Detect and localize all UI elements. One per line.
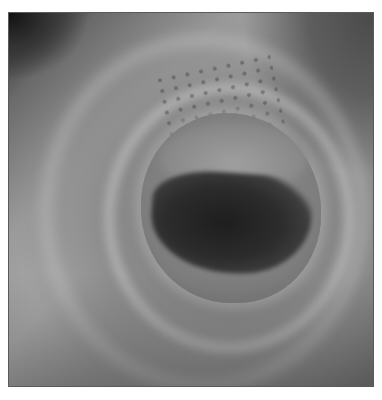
bottom-shade (9, 13, 373, 386)
endoscopic-image (8, 12, 374, 387)
